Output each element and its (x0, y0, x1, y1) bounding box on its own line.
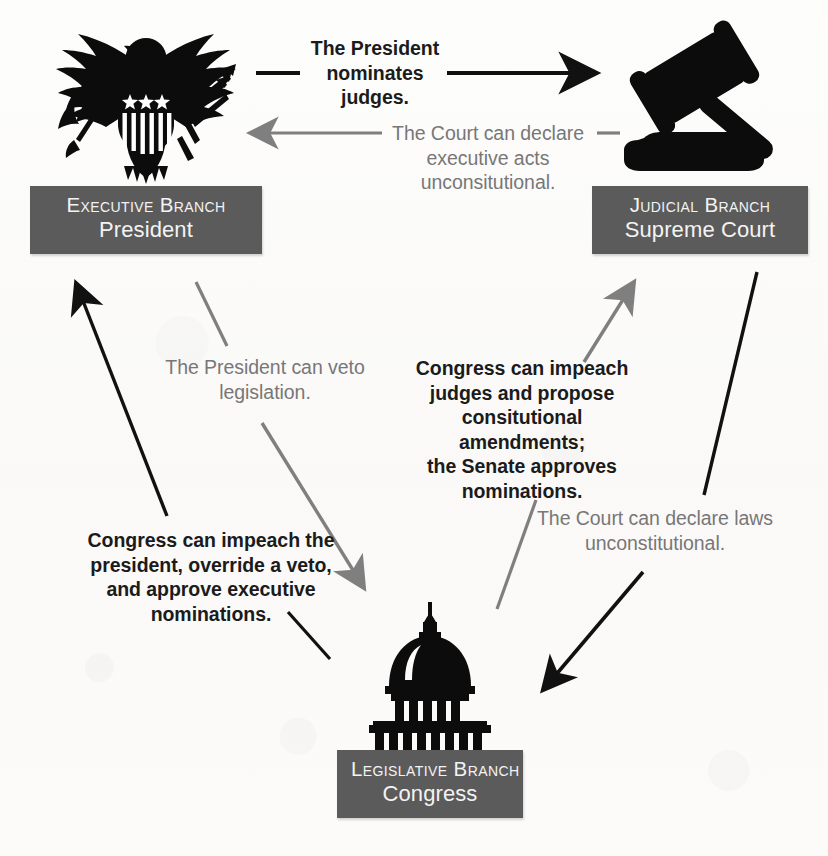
executive-branch-label[interactable]: Executive Branch President (30, 186, 262, 254)
caption-president-nominates: The President nominates judges. (301, 36, 449, 110)
legislative-branch-subtitle: Congress (351, 782, 509, 807)
checks-and-balances-diagram: Executive Branch President Judicial Bran… (0, 0, 828, 856)
caption-congress-impeach-president: Congress can impeach the president, over… (82, 528, 340, 626)
upper-columns (395, 701, 460, 723)
legislative-branch-title: Legislative Branch (351, 758, 509, 781)
judicial-branch-title: Judicial Branch (606, 194, 794, 217)
caption-congress-impeach-judges: Congress can impeach judges and propose … (402, 356, 642, 503)
node-executive-branch[interactable]: Executive Branch President (30, 18, 262, 254)
judicial-branch-label[interactable]: Judicial Branch Supreme Court (592, 186, 808, 254)
executive-branch-subtitle: President (44, 218, 248, 243)
lower-columns (375, 733, 482, 750)
node-legislative-branch[interactable]: Legislative Branch Congress (337, 600, 523, 818)
node-judicial-branch[interactable]: Judicial Branch Supreme Court (592, 18, 808, 254)
caption-court-declares-executive-acts: The Court can declare executive acts unc… (379, 121, 597, 195)
legislative-branch-label[interactable]: Legislative Branch Congress (337, 750, 523, 818)
caption-court-declares-laws: The Court can declare laws unconstitutio… (527, 506, 783, 555)
eagle-emblem-icon (40, 18, 252, 186)
executive-branch-title: Executive Branch (44, 194, 248, 217)
caption-president-veto: The President can veto legislation. (152, 355, 378, 404)
judicial-branch-subtitle: Supreme Court (606, 218, 794, 243)
capitol-dome-icon (345, 600, 515, 750)
gavel-icon (600, 18, 800, 186)
